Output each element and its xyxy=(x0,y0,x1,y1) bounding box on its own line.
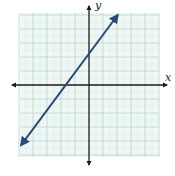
y-axis-label: y xyxy=(95,0,101,12)
coordinate-plane xyxy=(0,0,175,176)
x-axis-label: x xyxy=(165,71,171,84)
